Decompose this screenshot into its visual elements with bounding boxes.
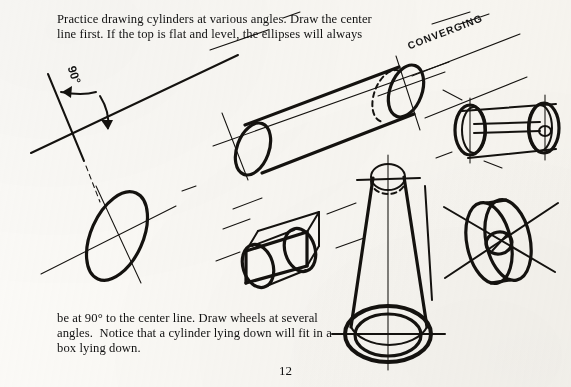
top-instruction-text: Practice drawing cylinders at various an… xyxy=(57,12,372,42)
figure-single-wheel xyxy=(425,186,558,300)
bottom-instruction-text: be at 90° to the center line. Draw wheel… xyxy=(57,311,332,357)
figure-wheels-on-axle xyxy=(443,90,559,168)
page-number: 12 xyxy=(0,363,571,379)
page-canvas: Practice drawing cylinders at various an… xyxy=(0,0,571,387)
figure-tilted-ellipse xyxy=(41,182,176,289)
figure-cylinder-in-box xyxy=(216,198,364,291)
figure-center-line-with-perpendicular xyxy=(31,55,238,202)
figure-tapered-vertical-cylinder xyxy=(332,155,445,370)
